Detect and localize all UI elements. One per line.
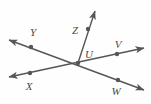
point-label-V: V	[115, 39, 122, 50]
point-label-U: U	[85, 49, 93, 60]
point-dot-W	[116, 78, 120, 82]
point-dot-Y	[29, 45, 33, 49]
geometry-figure: Y Z V U X W	[0, 0, 151, 104]
point-label-Y: Y	[30, 27, 36, 38]
point-dot-V	[115, 52, 119, 56]
point-label-Z: Z	[72, 25, 78, 36]
point-dot-Z	[86, 27, 90, 31]
point-label-W: W	[111, 86, 120, 97]
point-dot-U	[76, 61, 80, 65]
point-label-X: X	[26, 81, 33, 92]
figure-canvas	[0, 0, 151, 104]
point-dot-X	[28, 71, 32, 75]
